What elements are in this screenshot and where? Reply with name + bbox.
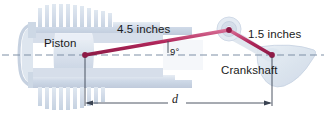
- cylinder-flange-upper: [28, 22, 36, 38]
- dimension-arrow-right: [264, 100, 272, 105]
- angle-label: 9°: [170, 47, 179, 57]
- cooling-fins-lower: [38, 87, 105, 110]
- piston-label: Piston: [44, 38, 77, 50]
- cooling-fins-upper: [38, 4, 112, 28]
- engine-diagram-figure: 4.5 inches 1.5 inches Piston Crankshaft …: [0, 0, 326, 115]
- cylinder-jacket-lower: [33, 68, 163, 77]
- distance-label: d: [172, 93, 178, 105]
- crankshaft-label: Crankshaft: [221, 65, 278, 77]
- crank-length-label: 1.5 inches: [248, 29, 301, 41]
- rod-length-label: 4.5 inches: [117, 24, 170, 36]
- crank-pin-joint: [226, 27, 232, 33]
- diagram-canvas: [0, 0, 326, 115]
